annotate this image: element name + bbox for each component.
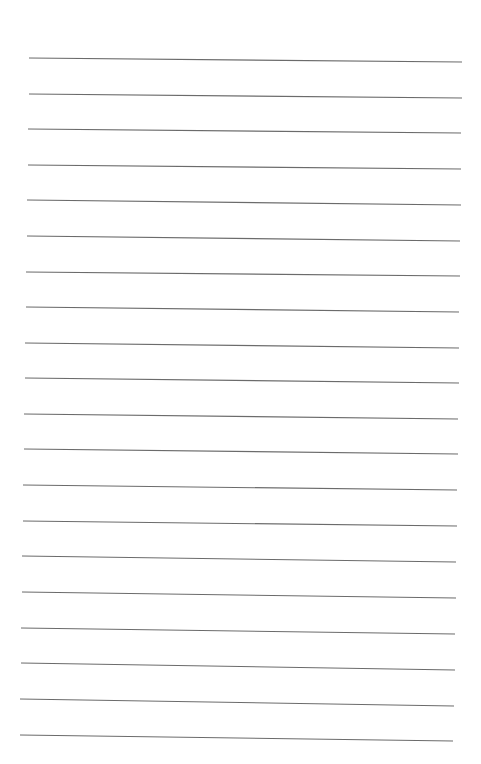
ruled-line-13 xyxy=(23,485,457,490)
ruled-line-12 xyxy=(24,449,458,454)
ruled-line-1 xyxy=(29,58,462,62)
ruled-line-15 xyxy=(22,556,456,562)
ruled-line-17 xyxy=(21,628,455,634)
ruled-line-2 xyxy=(29,94,462,98)
ruled-line-5 xyxy=(27,200,461,205)
ruled-line-6 xyxy=(27,236,460,241)
ruled-line-4 xyxy=(28,165,461,169)
ruled-line-10 xyxy=(25,378,459,383)
ruled-line-14 xyxy=(23,521,457,526)
ruled-line-3 xyxy=(28,129,461,133)
ruled-line-11 xyxy=(24,414,458,419)
ruled-lines xyxy=(0,0,481,764)
ruled-line-18 xyxy=(21,663,455,670)
lined-paper-page xyxy=(0,0,481,764)
ruled-line-7 xyxy=(26,272,460,276)
ruled-line-8 xyxy=(26,307,459,312)
ruled-line-19 xyxy=(20,699,454,706)
ruled-line-20 xyxy=(20,735,453,741)
ruled-line-16 xyxy=(22,592,456,598)
ruled-line-9 xyxy=(25,343,459,348)
